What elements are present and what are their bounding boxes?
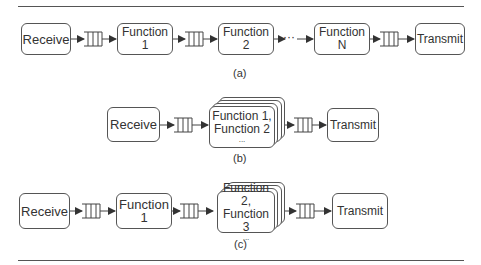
stack-line-2: Function 3 [218,208,274,234]
transmit-node: Transmit [332,193,388,229]
receive-node: Receive [21,23,71,55]
ellipsis: ··· [283,30,295,44]
stack-line-1: Function 2, [218,182,274,208]
function-1-node: Function 1 [116,193,172,229]
stack-more: ... [239,136,246,144]
function-n-node: Function N [314,23,370,55]
caption-a: (a) [233,67,246,79]
caption-b: (b) [233,152,246,164]
receive-node: Receive [19,193,70,229]
queue-icon [69,204,331,218]
receive-node: Receive [107,107,160,142]
function-2-node: Function 2 [218,23,274,55]
caption-c: (c) [234,238,247,250]
transmit-node: Transmit [415,23,465,55]
transmit-node: Transmit [327,108,379,142]
function-1-node: Function 1 [117,23,173,55]
